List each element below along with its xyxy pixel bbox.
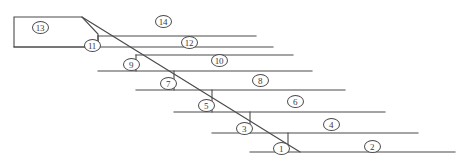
region-label-5: 5	[198, 99, 215, 112]
region-label-13: 13	[32, 21, 49, 34]
region-label-2: 2	[364, 140, 381, 153]
region-label-14: 14	[155, 15, 172, 28]
region-label-7: 7	[160, 77, 177, 90]
diagram-canvas	[0, 0, 466, 165]
region-label-10: 10	[211, 54, 228, 67]
region-label-8: 8	[252, 74, 269, 87]
region-label-3: 3	[236, 122, 253, 135]
region-label-12: 12	[181, 36, 198, 49]
region-label-6: 6	[287, 95, 304, 108]
region-label-9: 9	[123, 58, 140, 71]
region-label-4: 4	[323, 118, 340, 131]
region-label-1: 1	[273, 142, 290, 155]
staircase-diagram: 1 2 3 4 5 6 7 8 9 10 11 12 13 14	[0, 0, 466, 165]
diagram-strokes	[14, 17, 455, 152]
region-label-11: 11	[84, 39, 101, 52]
